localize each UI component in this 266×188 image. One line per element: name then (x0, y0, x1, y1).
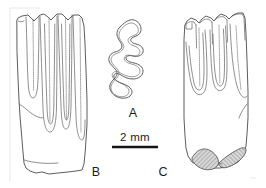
specimen-c-lateral-view: C (158, 13, 248, 179)
figure-container: B A 2 mm (0, 0, 266, 188)
panel-label-c: C (158, 165, 167, 179)
panel-label-a: A (129, 106, 138, 120)
specimen-b-outline (17, 14, 87, 174)
specimen-a-occlusal-view: A (109, 20, 143, 120)
specimen-c-edge-1 (196, 25, 197, 48)
figure-illustration: B A 2 mm (0, 0, 266, 188)
specimen-c-edge-3 (227, 20, 228, 42)
specimen-b-lateral-view: B (17, 14, 100, 179)
scale-bar-label: 2 mm (120, 131, 150, 143)
scale-bar: 2 mm (112, 131, 158, 147)
panel-label-b: B (92, 165, 101, 179)
specimen-c-edge-2 (212, 22, 213, 44)
